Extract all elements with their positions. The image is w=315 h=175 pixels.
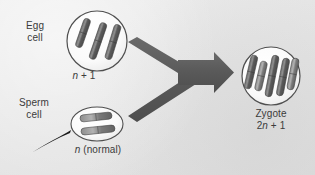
egg-cell-label: Egg cell	[8, 20, 62, 43]
zygote-name: Zygote	[255, 108, 286, 119]
fusion-arrow	[128, 37, 234, 122]
egg-ploidy-label: n + 1	[58, 70, 110, 82]
sperm-cell-label-line2: cell	[26, 109, 41, 120]
sperm-cell-membrane	[71, 107, 123, 141]
sperm-cell-label: Sperm cell	[4, 97, 64, 120]
egg-cell-label-line2: cell	[27, 32, 42, 43]
sperm-cell-label-line1: Sperm	[19, 97, 49, 108]
zygote-ploidy-rest: + 1	[268, 120, 285, 131]
zygote-cell	[242, 47, 300, 105]
sperm-ploidy-rest: (normal)	[80, 144, 121, 155]
egg-cell-label-line1: Egg	[26, 20, 44, 31]
sperm-ploidy-label: n (normal)	[60, 144, 136, 156]
egg-cell	[67, 11, 127, 71]
zygote-label: Zygote 2n + 1	[235, 108, 307, 131]
egg-ploidy-rest: + 1	[78, 70, 95, 81]
fertilization-diagram: Egg cell Sperm cell n + 1 n (normal) Zyg…	[0, 0, 315, 175]
